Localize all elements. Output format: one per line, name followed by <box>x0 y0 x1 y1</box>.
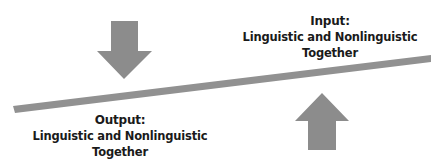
up-arrow-icon <box>295 93 349 150</box>
input-line2: Together <box>230 45 430 61</box>
output-title: Output: <box>20 112 220 128</box>
input-line1: Linguistic and Nonlinguistic <box>230 29 430 45</box>
input-title: Input: <box>230 13 430 29</box>
output-label: Output: Linguistic and Nonlinguistic Tog… <box>20 112 220 160</box>
input-label: Input: Linguistic and Nonlinguistic Toge… <box>230 13 430 61</box>
output-line2: Together <box>20 144 220 160</box>
output-line1: Linguistic and Nonlinguistic <box>20 128 220 144</box>
balance-bar <box>13 55 431 113</box>
down-arrow-icon <box>97 21 152 79</box>
